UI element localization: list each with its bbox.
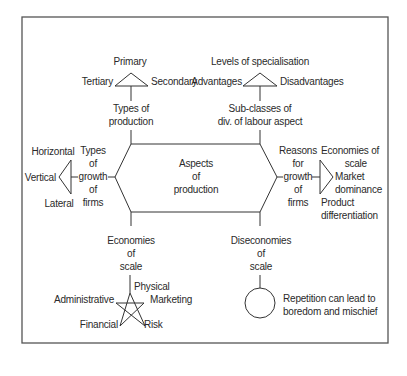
label-horizontal: Horizontal: [31, 145, 74, 158]
label-primary: Primary: [113, 55, 146, 68]
label-reasons-for-growth-of-firms: Reasons for growth of firms: [279, 144, 317, 209]
label-tertiary: Tertiary: [82, 75, 113, 88]
triangle-division-of-labour: [243, 73, 277, 86]
label-disadvantages: Disadvantages: [280, 75, 344, 88]
label-sub-classes-division-of-labour: Sub-classes of div. of labour aspect: [218, 102, 303, 128]
label-advantages: Advantages: [191, 75, 242, 88]
label-marketing: Marketing: [150, 293, 192, 306]
label-secondary: Secondary: [151, 75, 197, 88]
label-lateral: Lateral: [44, 197, 73, 210]
label-repetition-note: Repetition can lead to boredom and misch…: [283, 292, 377, 318]
label-vertical: Vertical: [25, 171, 56, 184]
label-product-differentiation: Product differentiation: [321, 196, 378, 222]
label-administrative: Administrative: [54, 293, 114, 306]
star-economies-of-scale: [116, 293, 145, 326]
label-aspects-of-production: Aspects of production: [174, 157, 219, 196]
label-types-of-production: Types of production: [109, 102, 154, 128]
label-levels-of-specialisation: Levels of specialisation: [211, 55, 309, 68]
label-diseconomies-of-scale: Diseconomies of scale: [231, 234, 291, 273]
triangle-types-of-production: [115, 73, 148, 86]
label-market-dominance: Market dominance: [335, 170, 382, 196]
label-physical: Physical: [134, 280, 170, 293]
label-financial: Financial: [80, 318, 118, 331]
label-economies-of-scale-reason: Economies of scale: [321, 144, 367, 170]
label-types-of-growth-of-firms: Types of growth of firms: [79, 144, 108, 209]
label-risk: Risk: [144, 318, 163, 331]
triangle-types-of-growth: [59, 160, 71, 194]
circle-diseconomies: [245, 288, 275, 318]
label-economies-of-scale: Economies of scale: [107, 234, 155, 273]
